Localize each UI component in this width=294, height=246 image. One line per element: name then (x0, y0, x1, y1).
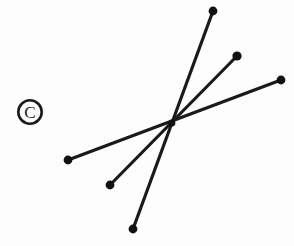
intersection-point (169, 120, 176, 127)
diagram-canvas: C Three intersecting line segments with … (0, 0, 294, 246)
line-diagram-svg: C (0, 0, 294, 246)
bottom-endpoint (129, 225, 138, 234)
canvas-background (0, 0, 294, 246)
left-endpoint (64, 156, 73, 165)
lower-left-endpoint (106, 181, 115, 190)
top-endpoint (209, 7, 218, 16)
copyright-glyph: C (24, 103, 35, 122)
upper-right-endpoint (232, 51, 241, 60)
right-endpoint (277, 76, 286, 85)
